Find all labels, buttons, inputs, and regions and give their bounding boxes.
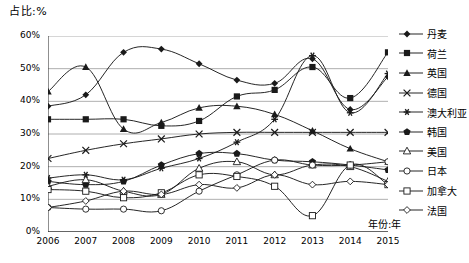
legend-symbol <box>404 30 411 37</box>
chart-container: 占比:% 年份:年 0%10%20%30%40%50%60% 200620072… <box>0 0 469 263</box>
legend-item-1[interactable]: 荷兰 <box>398 44 468 64</box>
legend-marker-hollow-square-icon <box>398 184 424 198</box>
legend-item-6[interactable]: 美国 <box>398 142 468 162</box>
legend-item-3[interactable]: 德国 <box>398 83 468 103</box>
legend-item-9[interactable]: 法国 <box>398 200 468 220</box>
legend-label: 法国 <box>424 203 447 218</box>
data-point <box>158 161 165 168</box>
data-point <box>196 181 203 188</box>
legend: 丹麦荷兰英国德国澳大利亚韩国美国日本加拿大法国 <box>398 24 468 220</box>
legend-marker-hollow-triangle-icon <box>398 144 424 158</box>
data-point <box>196 60 203 67</box>
legend-label: 英国 <box>424 65 447 80</box>
data-point <box>347 95 353 101</box>
data-point <box>384 166 388 173</box>
series-1 <box>48 49 388 129</box>
y-axis-tick: 20% <box>6 161 40 171</box>
legend-label: 加拿大 <box>424 183 457 198</box>
data-point <box>309 64 315 70</box>
series-line <box>48 160 388 212</box>
legend-symbol <box>403 128 410 135</box>
legend-symbol <box>404 207 411 214</box>
data-point <box>120 116 126 122</box>
data-point <box>347 178 354 185</box>
plot-area <box>48 36 388 232</box>
data-point <box>272 183 278 189</box>
data-point <box>309 181 316 188</box>
data-point <box>309 213 315 219</box>
data-point <box>347 145 354 152</box>
series-2 <box>48 63 388 164</box>
y-axis-tick: 30% <box>6 128 40 138</box>
data-point <box>120 195 126 201</box>
legend-label: 澳大利亚 <box>424 105 467 120</box>
data-point <box>385 159 388 165</box>
data-point <box>120 49 127 56</box>
x-axis-tick: 2013 <box>292 236 332 246</box>
legend-item-2[interactable]: 英国 <box>398 63 468 83</box>
data-point <box>233 77 240 84</box>
legend-marker-filled-diamond-icon <box>398 27 424 41</box>
series-line <box>48 164 388 216</box>
legend-label: 荷兰 <box>424 46 447 61</box>
legend-label: 丹麦 <box>424 26 447 41</box>
series-7 <box>48 157 388 214</box>
data-point <box>347 162 353 168</box>
data-point <box>82 198 89 205</box>
data-point <box>120 178 127 185</box>
data-point <box>196 118 202 124</box>
series-9 <box>48 171 388 210</box>
x-axis-tick: 2007 <box>66 236 106 246</box>
data-point <box>83 188 89 194</box>
data-point <box>195 165 202 172</box>
y-axis-tick: 60% <box>6 30 40 40</box>
y-axis-tick: 40% <box>6 95 40 105</box>
data-point <box>196 150 203 157</box>
data-point <box>196 172 202 178</box>
data-point <box>272 87 278 93</box>
y-axis-tick: 50% <box>6 63 40 73</box>
legend-item-0[interactable]: 丹麦 <box>398 24 468 44</box>
legend-item-8[interactable]: 加拿大 <box>398 181 468 201</box>
data-point <box>196 188 202 194</box>
x-axis-tick: 2011 <box>217 236 257 246</box>
data-point <box>233 185 240 192</box>
legend-item-5[interactable]: 韩国 <box>398 122 468 142</box>
data-point <box>385 71 388 77</box>
legend-item-7[interactable]: 日本 <box>398 161 468 181</box>
y-axis-label: 占比:% <box>9 2 47 18</box>
x-axis-tick: 2014 <box>330 236 370 246</box>
legend-label: 日本 <box>424 163 447 178</box>
legend-marker-x-cross-icon <box>398 86 424 100</box>
x-axis-tick: 2015 <box>368 236 408 246</box>
series-line <box>48 47 388 110</box>
data-point <box>309 162 315 168</box>
legend-marker-star-icon <box>398 105 424 119</box>
legend-marker-filled-pentagon-icon <box>398 125 424 139</box>
x-axis-tick: 2012 <box>255 236 295 246</box>
legend-label: 韩国 <box>424 124 447 139</box>
data-point <box>158 208 164 214</box>
series-line <box>48 52 388 126</box>
y-axis-tick: 0% <box>6 226 40 236</box>
data-point <box>48 186 51 192</box>
data-point <box>83 116 89 122</box>
data-point <box>48 116 51 122</box>
x-axis-tick: 2008 <box>104 236 144 246</box>
legend-marker-filled-square-icon <box>398 46 424 60</box>
y-axis-tick: 10% <box>6 193 40 203</box>
legend-marker-filled-triangle-icon <box>398 66 424 80</box>
x-axis-tick: 2009 <box>141 236 181 246</box>
legend-item-4[interactable]: 澳大利亚 <box>398 102 468 122</box>
series-4 <box>48 53 388 183</box>
legend-symbol <box>404 50 410 56</box>
data-point <box>83 206 89 212</box>
series-canvas <box>48 36 388 232</box>
legend-symbol <box>404 109 411 115</box>
series-line <box>48 56 388 180</box>
data-point <box>234 93 240 99</box>
data-point <box>271 80 278 87</box>
legend-label: 德国 <box>424 85 447 100</box>
data-point <box>233 139 240 145</box>
legend-label: 美国 <box>424 144 447 159</box>
